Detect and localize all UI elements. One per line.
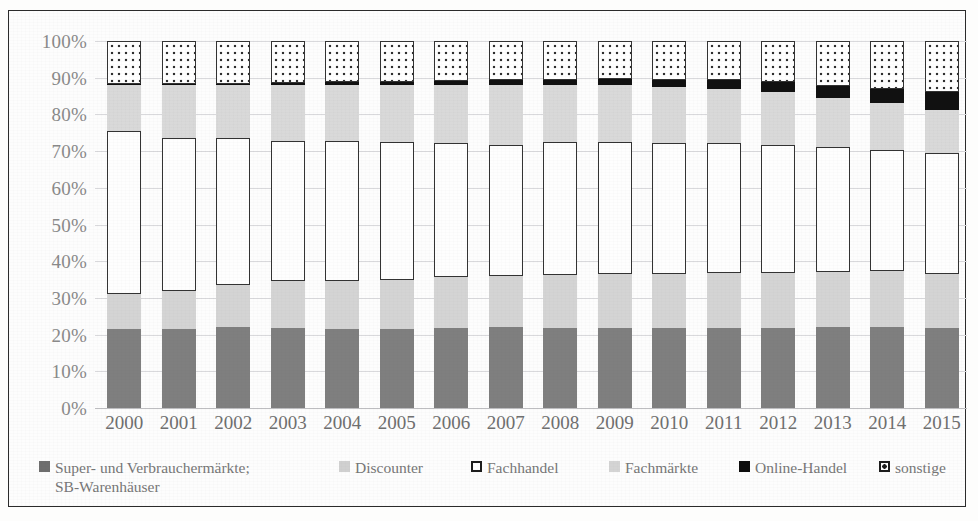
bar-segment xyxy=(216,138,250,285)
bar-segment xyxy=(598,41,632,79)
legend-label: Fachmärkte xyxy=(625,458,698,477)
x-tick-label: 2001 xyxy=(150,412,208,434)
bar-segment xyxy=(816,272,850,327)
bar-segment xyxy=(870,103,904,149)
legend-label-line2: SB-Warenhäuser xyxy=(55,477,250,496)
bar-segment xyxy=(107,85,141,131)
bar-segment xyxy=(707,143,741,273)
legend-swatch-icon xyxy=(339,461,350,472)
bar-segment xyxy=(543,41,577,80)
bar-segment xyxy=(489,85,523,144)
bar-segment xyxy=(489,80,523,85)
bar-segment xyxy=(707,328,741,408)
bar-2006 xyxy=(434,41,468,408)
bar-2000 xyxy=(107,41,141,408)
y-tick-label: 60% xyxy=(21,178,87,197)
bar-segment xyxy=(162,138,196,290)
bar-2012 xyxy=(761,41,795,408)
bar-segment xyxy=(870,89,904,104)
bar-segment xyxy=(216,84,250,85)
bar-segment xyxy=(271,281,305,328)
y-tick-label: 40% xyxy=(21,252,87,271)
bar-2003 xyxy=(271,41,305,408)
bar-segment xyxy=(434,277,468,328)
x-axis: 2000200120022003200420052006200720082009… xyxy=(95,412,967,442)
x-tick-label: 2015 xyxy=(913,412,971,434)
legend-swatch-icon xyxy=(39,461,50,472)
bar-segment xyxy=(489,327,523,408)
bar-segment xyxy=(761,328,795,408)
x-tick-label: 2009 xyxy=(586,412,644,434)
y-tick-label: 0% xyxy=(21,399,87,418)
bar-segment xyxy=(434,41,468,81)
bar-segment xyxy=(761,92,795,144)
bar-segment xyxy=(489,145,523,276)
bar-2011 xyxy=(707,41,741,408)
legend-item[interactable]: Discounter xyxy=(339,458,423,477)
chart-frame: 100%90%80%70%60%50%40%30%20%10%0% 200020… xyxy=(8,10,966,507)
bar-segment xyxy=(707,89,741,143)
legend-item[interactable]: Super- und Verbrauchermärkte;SB-Warenhäu… xyxy=(39,458,250,497)
bar-segment xyxy=(434,85,468,143)
bar-segment xyxy=(543,85,577,142)
x-tick-label: 2007 xyxy=(477,412,535,434)
y-tick-label: 100% xyxy=(21,32,87,51)
legend-item[interactable]: Online-Handel xyxy=(739,458,847,477)
x-tick-label: 2010 xyxy=(640,412,698,434)
bar-segment xyxy=(598,274,632,328)
y-tick-label: 30% xyxy=(21,288,87,307)
bar-segment xyxy=(652,274,686,328)
x-tick-label: 2004 xyxy=(313,412,371,434)
bar-segment xyxy=(107,41,141,84)
bar-segment xyxy=(598,328,632,408)
x-tick-label: 2008 xyxy=(531,412,589,434)
bar-segment xyxy=(761,273,795,328)
gridline-0 xyxy=(95,408,967,409)
legend-item[interactable]: sonstige xyxy=(879,458,946,477)
bar-segment xyxy=(652,80,686,87)
bar-2014 xyxy=(870,41,904,408)
bar-segment xyxy=(761,41,795,82)
bar-segment xyxy=(543,142,577,275)
bar-segment xyxy=(925,110,959,153)
bar-2008 xyxy=(543,41,577,408)
bar-segment xyxy=(380,41,414,82)
bar-segment xyxy=(925,153,959,273)
bar-segment xyxy=(325,329,359,408)
bar-segment xyxy=(816,41,850,86)
bar-segment xyxy=(325,281,359,329)
bar-2015 xyxy=(925,41,959,408)
x-tick-label: 2014 xyxy=(858,412,916,434)
bar-segment xyxy=(271,85,305,141)
bar-segment xyxy=(162,84,196,85)
legend-swatch-icon xyxy=(879,461,890,472)
bar-segment xyxy=(162,329,196,408)
plot-area xyxy=(95,41,967,408)
bar-segment xyxy=(816,147,850,273)
legend-label: Online-Handel xyxy=(755,458,847,477)
bar-segment xyxy=(271,83,305,85)
bar-segment xyxy=(816,86,850,98)
bar-segment xyxy=(598,142,632,273)
y-tick-label: 10% xyxy=(21,362,87,381)
bar-segment xyxy=(271,141,305,281)
bar-segment xyxy=(543,275,577,328)
bar-segment xyxy=(925,41,959,92)
bar-segment xyxy=(707,273,741,328)
bar-segment xyxy=(870,41,904,89)
bar-2005 xyxy=(380,41,414,408)
bar-segment xyxy=(380,82,414,85)
bar-segment xyxy=(434,143,468,277)
bar-segment xyxy=(107,329,141,408)
bar-segment xyxy=(870,150,904,272)
bar-2009 xyxy=(598,41,632,408)
bar-segment xyxy=(707,80,741,89)
bar-segment xyxy=(598,79,632,85)
bar-segment xyxy=(925,274,959,328)
bar-2002 xyxy=(216,41,250,408)
x-tick-label: 2006 xyxy=(422,412,480,434)
legend-item[interactable]: Fachhandel xyxy=(471,458,558,477)
bar-segment xyxy=(380,329,414,408)
bar-segment xyxy=(216,41,250,84)
legend-item[interactable]: Fachmärkte xyxy=(609,458,698,477)
